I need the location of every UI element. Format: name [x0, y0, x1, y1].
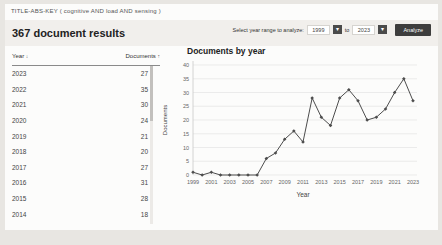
- documents-column-label: Documents: [125, 53, 155, 59]
- analyze-results-page: TITLE-ABS-KEY ( cognitive AND load AND s…: [0, 0, 442, 245]
- svg-text:Documents: Documents: [162, 105, 168, 135]
- table-row: 202235: [12, 82, 148, 98]
- year-cell[interactable]: 2016: [12, 179, 26, 186]
- table-row: 201727: [12, 160, 148, 176]
- year-cell[interactable]: 2015: [12, 195, 26, 202]
- svg-text:2003: 2003: [224, 179, 236, 185]
- year-column-label: Year: [12, 53, 24, 59]
- documents-count-cell: 21: [141, 133, 148, 140]
- year-column-header[interactable]: Year ↓: [12, 53, 28, 59]
- svg-text:2015: 2015: [334, 179, 346, 185]
- search-query[interactable]: TITLE-ABS-KEY ( cognitive AND load AND s…: [11, 8, 161, 14]
- svg-text:2001: 2001: [205, 179, 217, 185]
- range-to-label: to: [345, 27, 350, 33]
- svg-text:Year: Year: [296, 191, 310, 198]
- year-cell[interactable]: 2018: [12, 148, 26, 155]
- year-cell[interactable]: 2023: [12, 70, 26, 77]
- year-cell[interactable]: 2017: [12, 164, 26, 171]
- documents-count-cell: 30: [141, 101, 148, 108]
- to-year-select[interactable]: 2023: [352, 25, 375, 35]
- results-header-band: 367 document results Select year range t…: [5, 20, 438, 46]
- svg-text:2019: 2019: [370, 179, 382, 185]
- range-label: Select year range to analyze:: [233, 27, 304, 33]
- year-cell[interactable]: 2021: [12, 101, 26, 108]
- svg-text:2005: 2005: [242, 179, 254, 185]
- documents-by-year-table: 2023272022352021302020242019212018202017…: [12, 66, 148, 222]
- from-year-select[interactable]: 1999: [307, 25, 330, 35]
- svg-text:20: 20: [183, 117, 189, 123]
- documents-count-cell: 28: [141, 195, 148, 202]
- content-card: TITLE-ABS-KEY ( cognitive AND load AND s…: [5, 4, 438, 230]
- year-cell[interactable]: 2014: [12, 211, 26, 218]
- svg-text:35: 35: [183, 76, 189, 82]
- documents-count-cell: 31: [141, 179, 148, 186]
- year-cell[interactable]: 2019: [12, 133, 26, 140]
- analyze-button[interactable]: Analyze: [395, 24, 431, 36]
- documents-count-cell: 27: [141, 70, 148, 77]
- svg-text:2017: 2017: [352, 179, 364, 185]
- svg-text:10: 10: [183, 145, 189, 151]
- svg-text:1999: 1999: [187, 179, 199, 185]
- svg-text:0: 0: [186, 172, 189, 178]
- documents-count-cell: 27: [141, 164, 148, 171]
- svg-text:2013: 2013: [315, 179, 327, 185]
- year-cell[interactable]: 2022: [12, 86, 26, 93]
- table-row: 202130: [12, 97, 148, 113]
- svg-text:30: 30: [183, 90, 189, 96]
- results-count: 367 document results: [12, 27, 125, 39]
- svg-text:2009: 2009: [279, 179, 291, 185]
- table-scrollbar[interactable]: [150, 66, 153, 224]
- table-row: 202327: [12, 66, 148, 82]
- documents-count-cell: 20: [141, 148, 148, 155]
- documents-count-cell: 18: [141, 211, 148, 218]
- documents-count-cell: 35: [141, 86, 148, 93]
- from-year-dropdown-icon[interactable]: ▾: [333, 25, 342, 34]
- documents-column-header[interactable]: Documents ↑: [125, 53, 160, 59]
- table-header-row: Year ↓ Documents ↑: [12, 53, 160, 66]
- svg-text:5: 5: [186, 158, 189, 164]
- svg-text:25: 25: [183, 103, 189, 109]
- svg-text:2021: 2021: [389, 179, 401, 185]
- table-row: 201528: [12, 191, 148, 207]
- documents-count-cell: 24: [141, 117, 148, 124]
- sort-descending-icon[interactable]: ↓: [26, 53, 29, 59]
- scrollbar-thumb[interactable]: [150, 66, 153, 121]
- svg-text:2007: 2007: [260, 179, 272, 185]
- table-row: 201631: [12, 175, 148, 191]
- svg-text:15: 15: [183, 131, 189, 137]
- table-row: 202024: [12, 113, 148, 129]
- table-row: 201820: [12, 144, 148, 160]
- to-year-dropdown-icon[interactable]: ▾: [378, 25, 387, 34]
- table-row: 201921: [12, 128, 148, 144]
- svg-text:40: 40: [183, 62, 189, 68]
- svg-text:2023: 2023: [407, 179, 419, 185]
- year-range-selector: Select year range to analyze: 1999 ▾ to …: [233, 24, 431, 36]
- year-cell[interactable]: 2020: [12, 117, 26, 124]
- svg-text:2011: 2011: [297, 179, 309, 185]
- documents-by-year-chart: 0510152025303540199920012003200520072009…: [160, 54, 437, 206]
- table-row: 201418: [12, 206, 148, 222]
